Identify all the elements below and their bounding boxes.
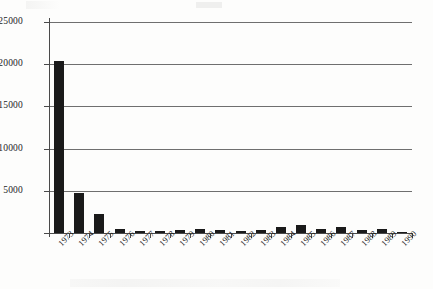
bar-1988 [357,230,367,233]
y-axis-label-20000: 20000 [0,58,23,68]
bar-1989 [377,229,387,233]
y-axis-tick-25000 [44,22,50,23]
y-axis-tick-20000 [44,64,50,65]
y-axis-label-10000: 10000 [0,143,23,153]
bar-1973 [54,61,64,233]
bar-1985 [296,225,306,233]
y-axis-tick-5000 [44,191,50,192]
bar-1984 [276,227,286,233]
bar-1977 [135,231,145,233]
gridline-25000 [49,22,412,23]
scan-artifact-bottom-caption [70,279,340,287]
bar-1976 [115,229,125,233]
y-axis-label-25000: 25000 [0,16,23,26]
gridline-10000 [49,149,412,150]
gridline-15000 [49,106,412,107]
y-axis-line [49,18,50,237]
y-axis-tick-10000 [44,149,50,150]
bar-1983 [256,230,266,233]
scan-artifact-top-secondary [196,2,222,8]
chart-page: 5000100001500020000250001973197419751976… [0,0,433,289]
y-axis-tick-0 [44,233,50,234]
bar-1975 [94,214,104,233]
bar-1974 [74,193,84,233]
gridline-20000 [49,64,412,65]
y-axis-label-5000: 5000 [3,185,23,195]
y-axis-label-15000: 15000 [0,100,23,110]
bar-1982 [236,231,246,233]
y-axis-tick-15000 [44,106,50,107]
gridline-5000 [49,191,412,192]
scan-artifact-top [26,1,326,9]
plot-area: 5000100001500020000250001973197419751976… [49,22,412,233]
